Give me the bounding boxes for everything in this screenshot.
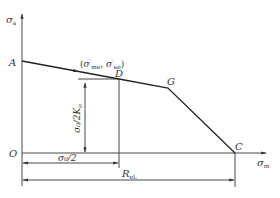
working-point-label: (σ′me, σ′ae) <box>80 58 124 70</box>
full-dimension-label: ReL <box>121 168 137 180</box>
origin-label: O <box>9 148 17 159</box>
y-axis-label: σa <box>6 14 17 26</box>
point-g-label: G <box>167 76 175 87</box>
limit-curve <box>22 61 235 153</box>
vertical-dimension-label: σ₀/2Kσ <box>72 103 83 133</box>
haigh-diagram: σa σm O A D G C (σ′me, σ′ae) σ₀/2Kσ σ₀/2… <box>0 0 280 198</box>
x-axis-label: σm <box>257 157 270 169</box>
half-dimension-label: σ₀/2 <box>58 153 77 163</box>
point-c-label: C <box>235 141 243 152</box>
point-a-label: A <box>8 57 16 68</box>
